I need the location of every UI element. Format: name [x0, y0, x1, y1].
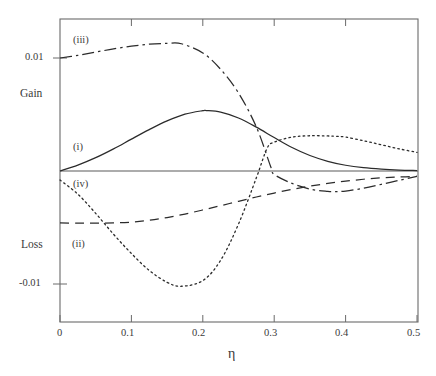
- y-tick-label-bottom: -0.01: [19, 278, 41, 289]
- curve-label-ii: (ii): [72, 239, 85, 250]
- curve-i: [60, 110, 417, 171]
- x-tick-label-1: 0.1: [121, 328, 134, 339]
- y-axis-upper-label: Gain: [20, 88, 42, 100]
- x-axis-title: η: [228, 347, 235, 361]
- chart-figure: Gain Loss 0.01 -0.01 0 0.1 0.2 0.3 0.4 0…: [0, 0, 436, 376]
- data-curves-group: [60, 43, 417, 286]
- x-tick-label-3: 0.3: [264, 328, 277, 339]
- x-tick-label-5: 0.5: [407, 328, 420, 339]
- curve-ii: [60, 176, 417, 223]
- curve-iii: [60, 43, 417, 192]
- plot-canvas: [0, 0, 436, 376]
- x-tick-label-4: 0.4: [335, 328, 348, 339]
- x-tick-label-2: 0.2: [192, 328, 205, 339]
- curve-label-iv: (iv): [73, 179, 88, 190]
- curve-iv: [60, 136, 417, 287]
- curve-label-iii: (iii): [73, 35, 89, 46]
- x-tick-marks: [60, 315, 417, 322]
- y-axis-lower-label: Loss: [21, 239, 43, 251]
- x-tick-label-0: 0: [57, 328, 62, 339]
- y-tick-label-top: 0.01: [25, 52, 43, 63]
- x-tick-marks-top: [131, 19, 345, 26]
- curve-label-i: (i): [73, 142, 83, 153]
